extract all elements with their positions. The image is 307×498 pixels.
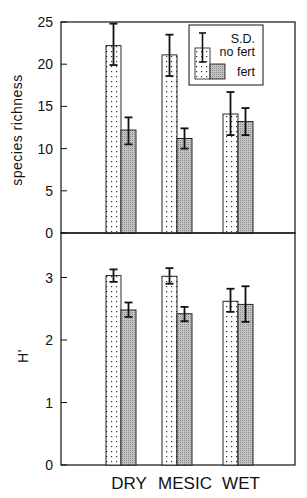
legend-sd-label: S.D. [231,32,255,46]
bottom-y-axis-title: H' [15,349,31,363]
bar-fert-mesic [177,138,192,233]
y-tick-label: 20 [37,56,53,72]
legend-fert-label: fert [237,65,256,79]
y-tick-label: 2 [45,332,53,348]
bar-no-fert-dry [106,46,121,233]
bar-fert-wet [238,122,253,233]
legend-swatch-fert [210,64,225,79]
category-label-dry: DRY [111,474,147,493]
y-tick-label: 3 [45,270,53,286]
y-tick-label: 15 [37,98,53,114]
y-tick-label: 0 [45,457,53,473]
legend: S.D. no fert fert [189,25,263,85]
top-panel: 0510152025 species richness S.D. no fert… [9,14,295,241]
bar-fert-wet [238,304,253,465]
bar-no-fert-dry [106,276,121,465]
y-tick-label: 25 [37,14,53,30]
x-category-labels: DRY MESIC WET [111,474,260,493]
bar-fert-dry [121,310,136,465]
bar-fert-mesic [177,314,192,465]
bar-no-fert-mesic [162,276,177,465]
y-tick-label: 0 [45,225,53,241]
bar-no-fert-mesic [162,55,177,233]
category-label-mesic: MESIC [158,474,212,493]
top-y-axis-title: species richness [9,74,25,186]
top-y-ticks: 0510152025 [37,14,67,241]
figure: 0510152025 species richness S.D. no fert… [0,0,307,498]
legend-no-fert-label: no fert [220,45,256,59]
category-label-wet: WET [222,474,260,493]
bottom-bars [106,268,253,465]
bar-no-fert-wet [223,301,238,465]
y-tick-label: 10 [37,141,53,157]
y-tick-label: 1 [45,395,53,411]
bar-fert-dry [121,130,136,233]
bottom-panel: 0123 H' [15,233,295,473]
bottom-y-ticks: 0123 [45,270,67,474]
y-tick-label: 5 [45,183,53,199]
